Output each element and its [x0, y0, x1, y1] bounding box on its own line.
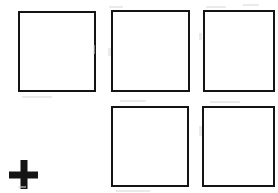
scan-speckle	[109, 6, 123, 8]
diagram-canvas	[0, 0, 278, 193]
square-bottom-middle	[111, 106, 189, 187]
square-bottom-right	[202, 106, 275, 187]
scan-speckle	[18, 186, 26, 188]
scan-speckle	[210, 101, 240, 103]
plus-horizontal-bar	[9, 171, 38, 178]
plus-icon	[9, 160, 38, 189]
plus-vertical-bar	[20, 160, 27, 189]
scan-speckle	[120, 100, 146, 102]
square-top-middle	[111, 10, 190, 92]
square-top-right	[203, 10, 275, 92]
scan-speckle	[199, 33, 202, 40]
scan-speckle	[243, 4, 259, 6]
scan-speckle	[22, 96, 52, 98]
scan-speckle	[206, 6, 226, 8]
square-top-left	[18, 11, 96, 92]
scan-speckle	[116, 190, 150, 192]
